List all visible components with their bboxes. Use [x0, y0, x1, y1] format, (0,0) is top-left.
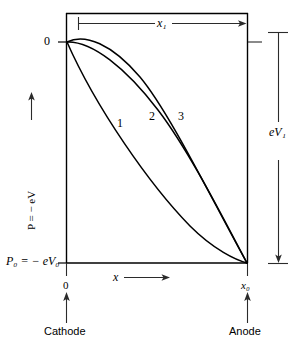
y-bottom-tick-label: P₀ = − eV₀	[6, 255, 60, 267]
anode-label: Anode	[229, 326, 261, 337]
y-axis-label: P = − eV	[26, 191, 37, 230]
curve-2	[67, 42, 247, 263]
curve-group	[67, 39, 247, 263]
x-tick-right-label: x₀	[241, 280, 250, 291]
x-axis-label: x	[113, 271, 118, 283]
x-tick-left-label: 0	[63, 280, 69, 291]
dimension-x1-label: x₁	[157, 17, 167, 29]
figure-canvas	[0, 0, 301, 347]
curve-label-1: 1	[117, 117, 123, 129]
anode-pointer-arrow	[244, 292, 251, 323]
curve-1	[67, 42, 247, 263]
x-ticks	[67, 263, 248, 276]
x-axis-arrow	[124, 274, 170, 281]
cathode-label: Cathode	[44, 326, 86, 337]
cathode-pointer-arrow	[63, 292, 70, 323]
figure-potential-distribution: P = − eV 0 P₀ = − eV₀ x₁ eV₁ x 0 x₀ Cath…	[0, 0, 301, 347]
dimension-ev1	[248, 33, 288, 264]
y-origin-tick-label: 0	[44, 35, 50, 47]
y-axis-arrow	[28, 92, 35, 120]
curve-label-3: 3	[178, 110, 184, 122]
curve-3	[67, 39, 247, 263]
curve-label-2: 2	[149, 110, 155, 122]
dimension-ev1-label: eV₁	[269, 126, 286, 138]
plot-frame	[66, 13, 248, 263]
